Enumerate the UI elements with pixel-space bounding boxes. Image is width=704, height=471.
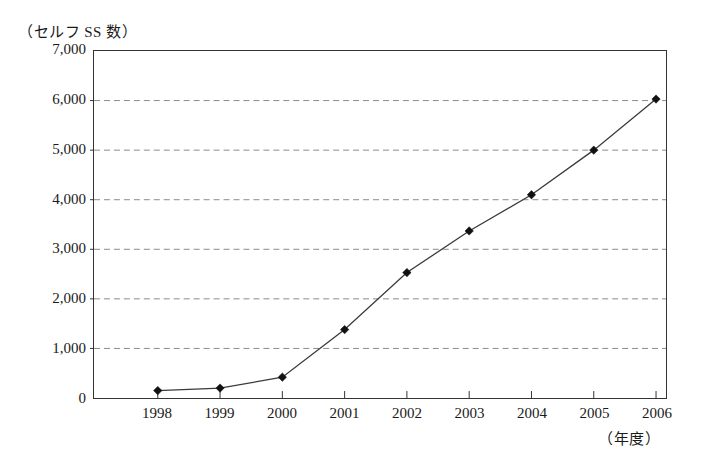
x-tick-label: 2004 bbox=[502, 404, 562, 422]
x-tick-label: 1998 bbox=[127, 404, 187, 422]
x-tick-label: 2001 bbox=[315, 404, 375, 422]
line-chart: （セルフ SS 数） 7,000 6,000 5,000 4,000 3,000… bbox=[0, 0, 704, 471]
data-point-marker bbox=[154, 386, 162, 394]
x-tick-label: 2006 bbox=[627, 404, 687, 422]
data-point-marker bbox=[216, 384, 224, 392]
y-axis-unit-caption: （セルフ SS 数） bbox=[18, 20, 137, 41]
plot-area bbox=[93, 50, 667, 399]
y-tick-label: 1,000 bbox=[6, 341, 86, 356]
data-point-marker bbox=[465, 227, 473, 235]
data-series bbox=[94, 51, 666, 398]
y-tick-label: 4,000 bbox=[6, 192, 86, 207]
x-axis-unit-caption: （年度） bbox=[598, 427, 660, 448]
data-point-marker bbox=[527, 191, 535, 199]
y-axis-tick-labels: 7,000 6,000 5,000 4,000 3,000 2,000 1,00… bbox=[0, 50, 86, 399]
y-tick-label: 3,000 bbox=[6, 241, 86, 256]
x-tick-label: 1999 bbox=[190, 404, 250, 422]
series-line bbox=[158, 99, 656, 390]
y-tick-label: 2,000 bbox=[6, 291, 86, 306]
x-tick-label: 2003 bbox=[440, 404, 500, 422]
x-tick-label: 2002 bbox=[377, 404, 437, 422]
y-tick-label: 6,000 bbox=[6, 92, 86, 107]
y-tick-label: 5,000 bbox=[6, 142, 86, 157]
x-axis-tick-labels: 199819992000200120022003200420052006 bbox=[93, 404, 667, 428]
y-tick-label: 7,000 bbox=[6, 42, 86, 57]
x-tick-label: 2000 bbox=[252, 404, 312, 422]
x-tick-label: 2005 bbox=[565, 404, 625, 422]
y-tick-label: 0 bbox=[6, 391, 86, 406]
